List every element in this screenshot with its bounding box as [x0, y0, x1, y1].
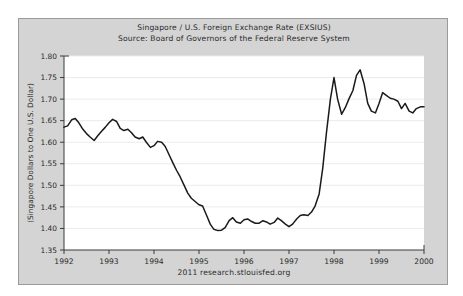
svg-text:1.40: 1.40 — [41, 224, 58, 233]
svg-text:1.60: 1.60 — [41, 138, 58, 147]
chart-figure: Singapore / U.S. Foreign Exchange Rate (… — [18, 18, 448, 285]
svg-text:1992: 1992 — [54, 257, 73, 266]
svg-text:1996: 1996 — [234, 257, 253, 266]
svg-text:1.50: 1.50 — [41, 181, 58, 190]
y-axis-label: (Singapore Dollars to One U.S. Dollar) — [26, 83, 35, 223]
svg-text:1994: 1994 — [144, 257, 163, 266]
svg-text:1997: 1997 — [279, 257, 298, 266]
svg-text:1.65: 1.65 — [41, 116, 58, 125]
chart-plot-area: 1.351.401.451.501.551.601.651.701.751.80… — [19, 19, 449, 286]
svg-text:1993: 1993 — [99, 257, 118, 266]
svg-text:1.80: 1.80 — [41, 52, 58, 61]
x-axis-ticks: 199219931994199519961997199819992000 — [54, 250, 433, 266]
svg-text:1.35: 1.35 — [41, 246, 58, 255]
chart-footer: 2011 research.stlouisfed.org — [19, 268, 449, 277]
svg-text:1.70: 1.70 — [41, 95, 58, 104]
svg-text:1.45: 1.45 — [41, 203, 58, 212]
svg-text:1999: 1999 — [369, 257, 388, 266]
plot-background — [64, 56, 424, 250]
svg-text:1995: 1995 — [189, 257, 208, 266]
y-axis-ticks: 1.351.401.451.501.551.601.651.701.751.80 — [41, 52, 64, 255]
svg-text:1998: 1998 — [324, 257, 343, 266]
svg-text:1.75: 1.75 — [41, 73, 58, 82]
svg-text:2000: 2000 — [414, 257, 433, 266]
svg-text:1.55: 1.55 — [41, 159, 58, 168]
